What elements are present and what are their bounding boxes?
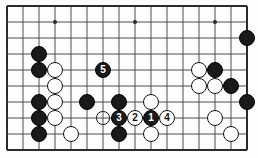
white-stone[interactable]: 2 bbox=[127, 110, 143, 126]
black-stone[interactable]: 3 bbox=[111, 110, 127, 126]
move-number-label: 2 bbox=[128, 111, 142, 125]
move-number-label: 1 bbox=[144, 111, 158, 125]
star-point bbox=[213, 20, 217, 24]
move-marker-circle bbox=[96, 111, 109, 124]
move-number-label: 5 bbox=[96, 63, 110, 77]
star-point bbox=[53, 20, 57, 24]
go-board-diagram: 53214 bbox=[0, 0, 258, 158]
star-point bbox=[133, 20, 137, 24]
black-stone[interactable]: 1 bbox=[143, 110, 159, 126]
move-number-label: 3 bbox=[112, 111, 126, 125]
move-number-label: 4 bbox=[160, 111, 174, 125]
white-stone[interactable]: 4 bbox=[159, 110, 175, 126]
black-stone[interactable]: 5 bbox=[95, 62, 111, 78]
